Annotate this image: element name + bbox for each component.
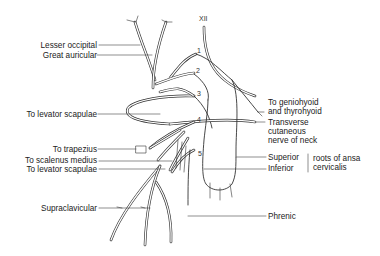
hypoglossal-nerve	[204, 27, 255, 96]
label-great-auricular: Great auricular	[43, 51, 97, 60]
root-c3	[194, 96, 212, 128]
label-cranial-nerve-xii: XII	[199, 15, 208, 22]
label-supraclavicular: Supraclavicular	[41, 204, 97, 213]
label-to-geniohyoid-line1: To geniohyoid	[268, 98, 322, 107]
label-superior-root: Superior	[268, 153, 299, 162]
root-number-5: 5	[198, 150, 202, 157]
label-transverse-cutaneous-line2: cutaneous	[268, 127, 317, 136]
muscular-branches	[136, 130, 188, 172]
root-number-1: 1	[197, 47, 201, 54]
levator-loop	[127, 89, 194, 124]
label-phrenic: Phrenic	[268, 212, 296, 221]
label-to-scalenus-medius: To scalenus medius	[25, 156, 97, 165]
label-ansa-line2: cervicalis	[313, 163, 360, 172]
label-transverse-cutaneous: Transverse cutaneous nerve of neck	[268, 118, 317, 145]
root-number-2: 2	[196, 67, 200, 74]
left-leader-lines	[97, 45, 172, 208]
label-to-levator-scapulae-lower: To levator scapulae	[26, 165, 97, 174]
root-number-3: 3	[197, 90, 201, 97]
phrenic-nerve	[188, 150, 190, 205]
label-to-levator-scapulae-upper: To levator scapulae	[26, 110, 97, 119]
upper-cutaneous-nerves	[127, 16, 172, 88]
label-inferior-root: Inferior	[268, 164, 293, 173]
label-to-geniohyoid-line2: and thyrohyoid	[268, 107, 322, 116]
label-ansa-line1: roots of ansa	[313, 154, 360, 163]
ansa-cervicalis	[203, 80, 237, 200]
label-to-trapezius: To trapezius	[53, 145, 97, 154]
label-transverse-cutaneous-line1: Transverse	[268, 118, 317, 127]
supraclavicular-nerves	[111, 166, 171, 245]
transverse-cutaneous-nerve	[170, 120, 255, 124]
label-to-geniohyoid: To geniohyoid and thyrohyoid	[268, 98, 322, 116]
label-transverse-cutaneous-line3: nerve of neck	[268, 136, 317, 145]
label-ansa-cervicalis-group: roots of ansa cervicalis	[313, 154, 360, 172]
root-number-4: 4	[197, 116, 201, 123]
cervical-plexus-diagram	[0, 0, 380, 256]
label-lesser-occipital: Lesser occipital	[41, 41, 97, 50]
